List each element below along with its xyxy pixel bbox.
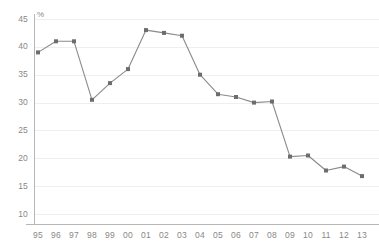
data-point-marker [36, 50, 40, 54]
series-layer [0, 0, 379, 247]
data-point-marker [306, 154, 310, 158]
data-point-marker [252, 101, 256, 105]
data-point-marker [126, 67, 130, 71]
data-point-marker [342, 165, 346, 169]
data-point-marker [270, 100, 274, 104]
line-chart: % 4540353025201510 959697989900010203040… [0, 0, 379, 247]
data-point-marker [324, 169, 328, 173]
data-point-marker [216, 92, 220, 96]
data-point-marker [108, 81, 112, 85]
data-point-marker [54, 39, 58, 43]
data-point-marker [90, 98, 94, 102]
data-point-marker [162, 31, 166, 35]
data-point-marker [144, 28, 148, 32]
data-point-marker [180, 34, 184, 38]
data-point-marker [288, 155, 292, 159]
plot-area: % 4540353025201510 959697989900010203040… [0, 0, 379, 247]
data-point-marker [198, 73, 202, 77]
series-markers [36, 28, 364, 178]
data-point-marker [234, 95, 238, 99]
data-point-marker [360, 174, 364, 178]
series-line [38, 30, 362, 176]
data-point-marker [72, 39, 76, 43]
